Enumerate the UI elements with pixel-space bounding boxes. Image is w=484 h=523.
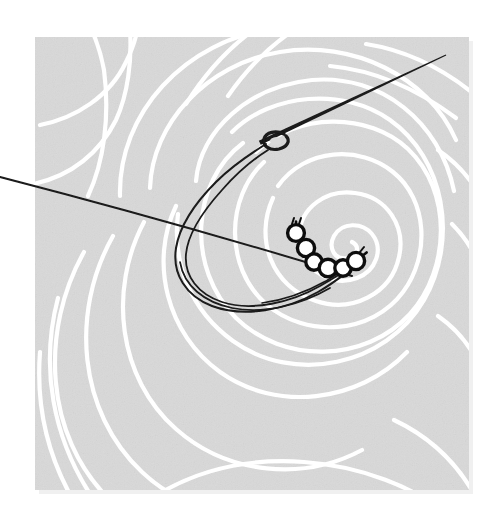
bead: [347, 252, 364, 269]
grey-fingerprint-panel: [33, 20, 482, 520]
illustration-artboard: Needle, Thread and Beads over a Fingerpr…: [0, 0, 484, 523]
needle-thread-beads-scene: Needle, Thread and Beads over a Fingerpr…: [0, 0, 484, 523]
